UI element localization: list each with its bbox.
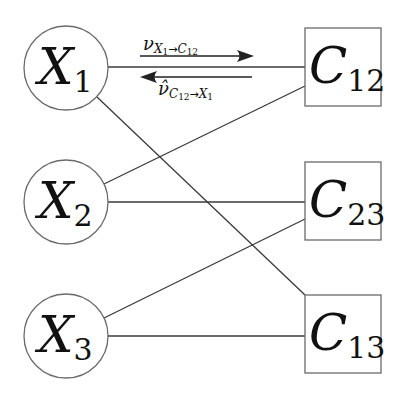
- message-c12-to-x1: ν̂C12→X1: [140, 71, 252, 102]
- message-label-c12-to-x1: ν̂C12→X1: [158, 78, 213, 102]
- message-label-x1-to-c12: νX1→C12: [143, 33, 198, 57]
- factor-node-c23: C23: [305, 162, 385, 240]
- variable-node-x1: X1: [24, 26, 108, 110]
- left-arrowhead-icon: [140, 71, 157, 83]
- factor-node-c12: C12: [305, 28, 385, 106]
- factor-node-c13: C13: [305, 295, 385, 373]
- edge-x3-c23: [104, 219, 305, 318]
- edges: [97, 67, 305, 336]
- variable-node-x3: X3: [24, 294, 108, 378]
- edge-x1-c13: [97, 97, 305, 295]
- message-x1-to-c12: νX1→C12: [140, 33, 254, 62]
- factor-graph-diagram: νX1→C12 ν̂C12→X1 X1 X2 X3 C12: [0, 0, 401, 395]
- right-arrowhead-icon: [237, 50, 254, 62]
- variable-node-x2: X2: [24, 160, 108, 244]
